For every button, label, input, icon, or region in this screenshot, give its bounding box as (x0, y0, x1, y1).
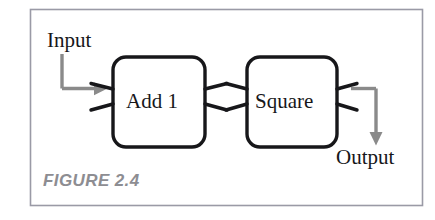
figure-canvas: Input Add 1 Square Output FIGURE 2.4 (0, 0, 435, 220)
figure-caption: FIGURE 2.4 (43, 172, 140, 189)
input-label: Input (47, 30, 91, 51)
block-add1-label: Add 1 (126, 91, 178, 112)
block-square-label: Square (255, 91, 313, 112)
output-label: Output (336, 147, 394, 168)
